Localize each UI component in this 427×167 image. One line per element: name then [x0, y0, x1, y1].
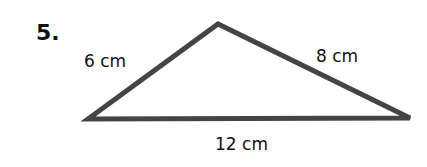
problem-card: 5. 6 cm 8 cm 12 cm: [0, 0, 427, 167]
side-label-right: 8 cm: [316, 46, 358, 66]
side-label-left: 6 cm: [84, 51, 126, 71]
triangle-shape: [88, 24, 410, 119]
triangle-figure: [0, 0, 427, 167]
side-label-base: 12 cm: [215, 134, 268, 154]
